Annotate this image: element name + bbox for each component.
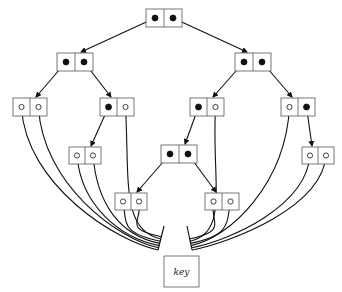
pointer-node-RLLL <box>115 193 147 210</box>
hollow-pointer-dot-icon <box>120 199 125 204</box>
pointer-node-RLLR <box>205 193 239 210</box>
pointer-node-R <box>235 53 271 71</box>
hollow-pointer-dot-icon <box>136 199 141 204</box>
pointer-node-LR <box>100 98 134 116</box>
filled-pointer-dot-icon <box>81 59 87 65</box>
filled-pointer-dot-icon <box>259 59 265 65</box>
pointer-node-RL <box>190 98 224 116</box>
child-pointer-edges <box>36 18 312 192</box>
filled-pointer-dot-icon <box>241 59 247 65</box>
filled-pointer-dot-icon <box>170 15 176 21</box>
filled-pointer-dot-icon <box>167 151 173 157</box>
leaf-pointer-curves <box>22 107 327 250</box>
hollow-pointer-dot-icon <box>307 153 312 158</box>
pointer-node-RR <box>281 98 315 116</box>
filled-pointer-dot-icon <box>152 15 158 21</box>
hollow-pointer-dot-icon <box>19 104 24 109</box>
pointer-node-RRR <box>302 147 334 164</box>
hollow-pointer-dot-icon <box>228 199 233 204</box>
filled-pointer-dot-icon <box>185 151 191 157</box>
hollow-pointer-dot-icon <box>74 153 79 158</box>
hollow-pointer-dot-icon <box>211 199 216 204</box>
hollow-pointer-dot-icon <box>123 104 128 109</box>
hollow-pointer-dot-icon <box>36 104 41 109</box>
pointer-node-LRL <box>69 147 101 164</box>
pointer-node-root <box>146 9 182 27</box>
pointer-node-RLL <box>161 145 197 163</box>
key-label: key <box>174 267 191 277</box>
key-box: key <box>164 256 199 287</box>
filled-pointer-dot-icon <box>196 104 202 110</box>
hollow-pointer-dot-icon <box>90 153 95 158</box>
hollow-pointer-dot-icon <box>213 104 218 109</box>
pointer-node-L <box>57 53 93 71</box>
hollow-pointer-dot-icon <box>323 153 328 158</box>
pointer-tree-diagram: key <box>0 0 342 292</box>
hollow-pointer-dot-icon <box>287 104 292 109</box>
filled-pointer-dot-icon <box>106 104 112 110</box>
pointer-node-LL <box>13 98 47 116</box>
filled-pointer-dot-icon <box>63 59 69 65</box>
tree-nodes <box>13 9 334 210</box>
filled-pointer-dot-icon <box>304 104 310 110</box>
